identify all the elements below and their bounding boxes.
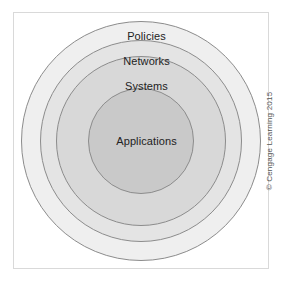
ring-label-networks: Networks bbox=[0, 55, 293, 67]
copyright-credit: © Cengage Learning 2015 bbox=[265, 92, 274, 191]
ring-label-policies: Policies bbox=[0, 30, 293, 42]
ring-label-applications: Applications bbox=[0, 135, 293, 147]
concentric-rings-diagram: Policies Networks Systems Applications bbox=[0, 0, 293, 282]
ring-label-systems: Systems bbox=[0, 80, 293, 92]
